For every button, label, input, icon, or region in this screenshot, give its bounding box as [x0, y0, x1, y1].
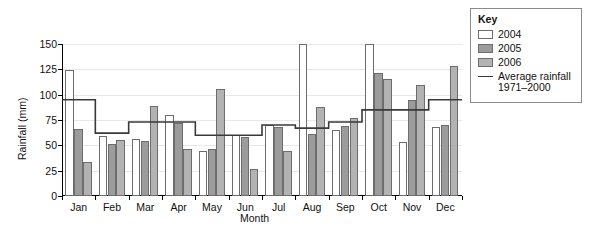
- bar-may-2005: [208, 149, 217, 196]
- y-tick-label: 75: [23, 115, 57, 125]
- bar-feb-2006: [116, 140, 125, 196]
- x-tick-mark: [129, 196, 130, 200]
- legend-title: Key: [478, 14, 575, 25]
- bar-aug-2005: [308, 134, 317, 196]
- bar-may-2004: [199, 151, 208, 196]
- x-tick-label-feb: Feb: [95, 201, 128, 213]
- legend-swatch-2006: [478, 58, 493, 67]
- bar-sep-2004: [332, 130, 341, 196]
- x-tick-mark: [429, 196, 430, 200]
- bar-oct-2005: [374, 73, 383, 196]
- x-tick-mark: [95, 196, 96, 200]
- y-tick-label: 125: [23, 64, 57, 74]
- x-tick-label-oct: Oct: [362, 201, 395, 213]
- bar-apr-2006: [183, 149, 192, 196]
- bar-jun-2006: [250, 169, 259, 196]
- bar-sep-2005: [341, 126, 350, 196]
- x-axis-title: Month: [240, 212, 269, 224]
- legend-item-2006: 2006: [478, 57, 575, 68]
- x-tick-mark: [162, 196, 163, 200]
- bar-oct-2006: [383, 79, 392, 196]
- bar-dec-2005: [441, 125, 450, 196]
- x-tick-label-sep: Sep: [329, 201, 362, 213]
- bar-oct-2004: [365, 44, 374, 196]
- y-tick-label: 50: [23, 140, 57, 150]
- y-tick-label: 150: [23, 39, 57, 49]
- legend-label-average-line2: 1971–2000: [498, 82, 571, 93]
- x-tick-mark: [462, 196, 463, 200]
- bar-mar-2005: [141, 141, 150, 196]
- bar-jul-2004: [265, 125, 274, 196]
- y-tick-label: 100: [23, 90, 57, 100]
- legend-swatch-2005: [478, 44, 493, 53]
- bar-jun-2004: [232, 135, 241, 196]
- bar-apr-2004: [165, 115, 174, 196]
- y-axis-title: Rainfall (mm): [16, 98, 28, 160]
- y-tick-label: 0: [23, 191, 57, 201]
- legend-label-2005: 2005: [498, 43, 521, 54]
- bar-dec-2004: [432, 127, 441, 196]
- bar-apr-2005: [174, 123, 183, 196]
- x-tick-label-may: May: [195, 201, 228, 213]
- bar-may-2006: [216, 89, 225, 196]
- bar-aug-2006: [316, 107, 325, 196]
- legend-label-2006: 2006: [498, 57, 521, 68]
- bar-nov-2004: [399, 142, 408, 196]
- legend-label-2004: 2004: [498, 29, 521, 40]
- bar-jan-2004: [65, 70, 74, 196]
- bar-nov-2006: [416, 85, 425, 196]
- x-tick-mark: [229, 196, 230, 200]
- legend-swatch-2004: [478, 30, 493, 39]
- x-tick-mark: [195, 196, 196, 200]
- bar-nov-2005: [408, 100, 417, 196]
- x-tick-label-aug: Aug: [295, 201, 328, 213]
- x-tick-label-mar: Mar: [129, 201, 162, 213]
- bar-mar-2006: [150, 106, 159, 196]
- y-tick-label: 25: [23, 166, 57, 176]
- bar-sep-2006: [350, 118, 359, 196]
- legend-item-2005: 2005: [478, 43, 575, 54]
- legend-line-icon: [478, 72, 493, 81]
- bar-jan-2005: [74, 129, 83, 196]
- bar-jul-2005: [274, 127, 283, 196]
- bar-dec-2006: [450, 66, 459, 196]
- x-tick-label-nov: Nov: [395, 201, 428, 213]
- x-tick-label-dec: Dec: [429, 201, 462, 213]
- bar-mar-2004: [132, 139, 141, 196]
- bar-jul-2006: [283, 151, 292, 196]
- bar-aug-2004: [299, 44, 308, 196]
- bar-jun-2005: [241, 137, 250, 196]
- legend-item-average-rainfall: Average rainfall 1971–2000: [478, 71, 575, 93]
- x-tick-mark: [295, 196, 296, 200]
- x-tick-label-apr: Apr: [162, 201, 195, 213]
- rainfall-bar-chart: Rainfall (mm) 0255075100125150 JanFebMar…: [0, 0, 590, 246]
- legend-key-box: Key 2004 2005 2006 Average rainfall 1971…: [470, 8, 582, 103]
- x-tick-mark: [395, 196, 396, 200]
- x-tick-mark: [362, 196, 363, 200]
- bar-jan-2006: [83, 162, 92, 196]
- x-tick-mark: [329, 196, 330, 200]
- x-tick-mark: [262, 196, 263, 200]
- x-tick-mark: [62, 196, 63, 200]
- legend-item-2004: 2004: [478, 29, 575, 40]
- legend-label-average-rainfall: Average rainfall 1971–2000: [498, 71, 571, 93]
- bar-feb-2004: [99, 136, 108, 196]
- x-tick-label-jan: Jan: [62, 201, 95, 213]
- plot-frame: JanFebMarAprMayJunJulAugSepOctNovDec: [62, 44, 462, 196]
- bar-feb-2005: [108, 144, 117, 196]
